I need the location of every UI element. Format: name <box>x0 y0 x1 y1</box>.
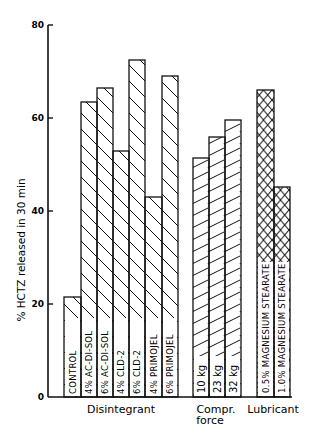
y-tick-20: 20 <box>31 299 44 309</box>
bar-label-32kg: 32 kg <box>228 365 239 393</box>
y-tick-0: 0 <box>38 392 44 402</box>
bar-chart: 80 60 40 20 0 % HCTZ released in 30 min … <box>0 0 320 442</box>
group-label-disintegrant: Disintegrant <box>87 403 156 416</box>
y-tick-60: 60 <box>31 113 44 123</box>
bar-32kg <box>225 120 241 397</box>
bar-label-1.0pct-magnesium-stearate: 1.0% MAGNESIUM STEARATE <box>277 263 287 393</box>
bar-label-0.5pct-magnesium-stearate: 0.5% MAGNESIUM STEARATE <box>261 263 271 393</box>
bar-label-23kg: 23 kg <box>212 365 223 393</box>
y-axis: 80 60 40 20 0 % HCTZ released in 30 min <box>15 20 53 402</box>
y-axis-label: % HCTZ released in 30 min <box>15 178 27 321</box>
bar-label-4pct-cld-2: 4% CLD-2 <box>116 350 126 394</box>
group-label-force: force <box>196 414 224 427</box>
compression-bars <box>193 120 241 397</box>
bar-label-4pct-primojel: 4% PRIMOJEL <box>149 334 159 394</box>
bar-label-control: CONTROL <box>68 350 78 394</box>
y-tick-80: 80 <box>31 20 44 30</box>
bar-label-10kg: 10 kg <box>196 365 207 393</box>
bar-label-6pct-cld-2: 6% CLD-2 <box>132 350 142 394</box>
bar-label-4pct-ac-di-sol: 4% AC-DI-SOL <box>84 331 94 394</box>
y-tick-40: 40 <box>31 206 44 216</box>
bar-label-6pct-primojel: 6% PRIMOJEL <box>165 334 175 394</box>
group-label-lubricant: Lubricant <box>247 403 299 416</box>
bar-label-6pct-ac-di-sol: 6% AC-DI-SOL <box>100 331 110 394</box>
compression-bar-labels: 10 kg 23 kg 32 kg <box>196 365 239 393</box>
